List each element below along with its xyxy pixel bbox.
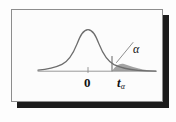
figure-root: 0 tα α xyxy=(0,0,176,122)
x-axis-label-critical-value: tα xyxy=(117,76,125,91)
figure-plate: 0 tα α xyxy=(11,9,163,102)
alpha-leader-line xyxy=(117,43,134,63)
critical-value-subscript: α xyxy=(121,82,125,91)
tail-area-label-alpha: α xyxy=(133,43,139,55)
x-axis-label-origin: 0 xyxy=(84,76,91,89)
